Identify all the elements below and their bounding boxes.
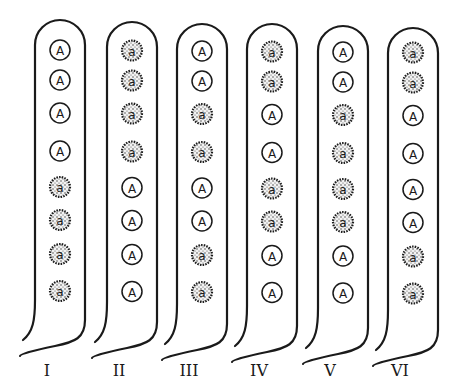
dominant-allele-spore: A <box>333 72 353 92</box>
allele-letter: a <box>56 248 63 262</box>
allele-letter: A <box>268 147 277 161</box>
tube-ii: aaaaAAAAII <box>92 22 157 380</box>
dominant-allele-spore: A <box>403 144 423 164</box>
tube-label: I <box>44 361 50 380</box>
allele-letter: a <box>56 181 63 195</box>
allele-letter: a <box>56 285 63 299</box>
dominant-allele-spore: A <box>333 246 353 266</box>
dominant-allele-spore: A <box>262 105 282 125</box>
tube-iii: AAaaAAaaIII <box>162 24 227 380</box>
tube-label: II <box>113 361 126 380</box>
recessive-allele-spore: a <box>262 179 282 199</box>
recessive-allele-spore: a <box>122 71 142 91</box>
recessive-allele-spore: a <box>403 43 423 63</box>
allele-letter: A <box>339 287 348 301</box>
allele-letter: A <box>198 75 207 89</box>
dominant-allele-spore: A <box>192 71 212 91</box>
allele-letter: a <box>128 108 135 122</box>
tube-vi: aaAAAAaaVI <box>373 28 438 380</box>
recessive-allele-spore: a <box>262 72 282 92</box>
allele-letter: A <box>409 217 418 231</box>
dominant-allele-spore: A <box>122 245 142 265</box>
allele-letter: A <box>268 250 277 264</box>
allele-letter: A <box>198 182 207 196</box>
allele-letter: A <box>409 184 418 198</box>
dominant-allele-spore: A <box>122 282 142 302</box>
recessive-allele-spore: a <box>333 179 353 199</box>
allele-letter: A <box>56 145 65 159</box>
allele-letter: a <box>128 75 135 89</box>
recessive-allele-spore: a <box>50 177 70 197</box>
allele-letter: A <box>128 215 137 229</box>
allele-letter: a <box>339 109 346 123</box>
allele-letter: a <box>339 147 346 161</box>
recessive-allele-spore: a <box>262 212 282 232</box>
recessive-allele-spore: a <box>122 104 142 124</box>
allele-letter: a <box>409 47 416 61</box>
allele-letter: A <box>56 44 65 58</box>
dominant-allele-spore: A <box>192 178 212 198</box>
allele-letter: a <box>198 286 205 300</box>
allele-letter: a <box>339 216 346 230</box>
allele-letter: a <box>128 146 135 160</box>
dominant-allele-spore: A <box>122 211 142 231</box>
recessive-allele-spore: a <box>50 281 70 301</box>
recessive-allele-spore: a <box>50 244 70 264</box>
allele-letter: a <box>268 216 275 230</box>
allele-letter: a <box>339 183 346 197</box>
allele-letter: a <box>409 77 416 91</box>
tube-label: III <box>180 361 199 380</box>
recessive-allele-spore: a <box>122 41 142 61</box>
dominant-allele-spore: A <box>50 40 70 60</box>
recessive-allele-spore: a <box>333 212 353 232</box>
allele-letter: A <box>268 109 277 123</box>
recessive-allele-spore: a <box>333 105 353 125</box>
tube-v: AAaaaaAAV <box>303 26 368 380</box>
tube-label: VI <box>390 361 409 380</box>
allele-letter: a <box>268 46 275 60</box>
recessive-allele-spore: a <box>192 245 212 265</box>
tube-iv: aaAAaaAAIV <box>232 24 297 380</box>
dominant-allele-spore: A <box>192 41 212 61</box>
allele-letter: a <box>409 288 416 302</box>
recessive-allele-spore: a <box>192 282 212 302</box>
recessive-allele-spore: a <box>50 210 70 230</box>
dominant-allele-spore: A <box>403 180 423 200</box>
dominant-allele-spore: A <box>403 213 423 233</box>
recessive-allele-spore: a <box>403 73 423 93</box>
allele-letter: A <box>56 74 65 88</box>
allele-letter: a <box>198 249 205 263</box>
allele-letter: A <box>198 215 207 229</box>
allele-letter: A <box>198 45 207 59</box>
ascus-diagram: AAAAaaaaIaaaaAAAAIIAAaaAAaaIIIaaAAaaAAIV… <box>0 0 454 391</box>
allele-letter: a <box>409 251 416 265</box>
allele-letter: a <box>128 45 135 59</box>
allele-letter: A <box>339 250 348 264</box>
recessive-allele-spore: a <box>262 42 282 62</box>
allele-letter: A <box>56 107 65 121</box>
dominant-allele-spore: A <box>262 143 282 163</box>
recessive-allele-spore: a <box>192 142 212 162</box>
recessive-allele-spore: a <box>403 247 423 267</box>
allele-letter: A <box>268 287 277 301</box>
allele-letter: a <box>198 108 205 122</box>
allele-letter: a <box>268 76 275 90</box>
tube-i: AAAAaaaaI <box>20 20 85 380</box>
dominant-allele-spore: A <box>192 211 212 231</box>
allele-letter: a <box>268 183 275 197</box>
dominant-allele-spore: A <box>50 103 70 123</box>
dominant-allele-spore: A <box>403 106 423 126</box>
allele-letter: A <box>128 286 137 300</box>
allele-letter: a <box>56 214 63 228</box>
recessive-allele-spore: a <box>403 284 423 304</box>
dominant-allele-spore: A <box>50 70 70 90</box>
recessive-allele-spore: a <box>122 142 142 162</box>
allele-letter: a <box>198 146 205 160</box>
allele-letter: A <box>339 46 348 60</box>
allele-letter: A <box>409 148 418 162</box>
dominant-allele-spore: A <box>50 141 70 161</box>
recessive-allele-spore: a <box>192 104 212 124</box>
recessive-allele-spore: a <box>333 143 353 163</box>
allele-letter: A <box>339 76 348 90</box>
allele-letter: A <box>128 182 137 196</box>
